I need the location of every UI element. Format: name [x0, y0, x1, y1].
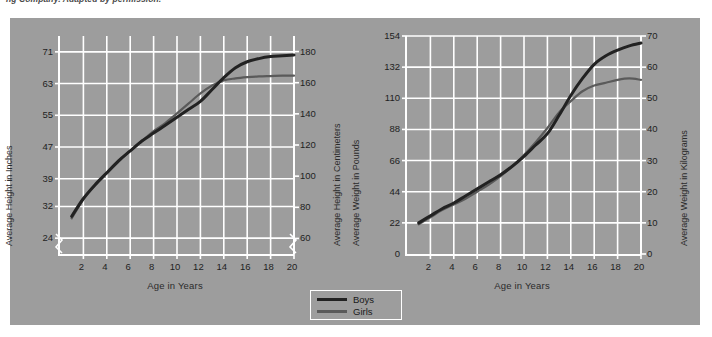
y-tick-label: 110: [366, 92, 400, 103]
y-tick-label: 132: [366, 61, 400, 72]
chart-height: Average Height in Inches Average Height …: [10, 18, 355, 288]
x-tick-label: 12: [535, 261, 555, 272]
y2-tick-label: 100: [300, 170, 330, 181]
x-tick-label: 14: [559, 261, 579, 272]
y2-tick-label: 120: [300, 139, 330, 150]
y2-tick-label: 80: [300, 201, 330, 212]
legend-label-girls: Girls: [353, 306, 373, 317]
height-curves: [60, 36, 294, 254]
y2-tick-label: 40: [647, 123, 677, 134]
y-tick-label: 63: [19, 78, 53, 89]
legend-swatch-boys: [317, 298, 347, 301]
y-tick-label: 0: [366, 248, 400, 259]
x-tick-label: 14: [212, 261, 232, 272]
y2-tick-label: 60: [300, 232, 330, 243]
legend-swatch-girls: [317, 310, 347, 313]
x-tick-label: 18: [606, 261, 626, 272]
legend: Boys Girls: [310, 290, 402, 320]
x-tick-label: 4: [95, 261, 115, 272]
plot-area-height: [58, 36, 294, 256]
y2-tick-label: 70: [647, 30, 677, 41]
y2-tick-label: 0: [647, 248, 677, 259]
caption-text: ng Company. Adapted by permission.: [6, 0, 161, 4]
x-tick-label: 8: [489, 261, 509, 272]
x-tick-label: 6: [118, 261, 138, 272]
y-tick-label: 39: [19, 173, 53, 184]
x-tick-label: 10: [165, 261, 185, 272]
y2-tick-label: 60: [647, 61, 677, 72]
x-tick-label: 10: [512, 261, 532, 272]
y-tick-label: 22: [366, 217, 400, 228]
x-tick-label: 2: [418, 261, 438, 272]
y2-tick-label: 30: [647, 155, 677, 166]
y-tick-label: 55: [19, 109, 53, 120]
y-tick-label: 71: [19, 46, 53, 57]
y2-tick-label: 180: [300, 46, 330, 57]
y2-tick-label: 20: [647, 186, 677, 197]
y-axis-title-inches: Average Height in Inches: [4, 146, 14, 246]
y-tick-label: 24: [19, 232, 53, 243]
x-axis-title-age: Age in Years: [58, 280, 292, 291]
y-tick-label: 88: [366, 123, 400, 134]
y2-tick-label: 140: [300, 108, 330, 119]
y-tick-label: 154: [366, 30, 400, 41]
x-tick-label: 20: [629, 261, 649, 272]
x-tick-label: 6: [465, 261, 485, 272]
caption-strip: ng Company. Adapted by permission.: [0, 0, 712, 14]
x-tick-label: 16: [582, 261, 602, 272]
x-tick-label: 2: [71, 261, 91, 272]
figure-panel: Average Height in Inches Average Height …: [10, 18, 700, 325]
y2-axis-title-kilograms: Average Weight in Kilograms: [679, 130, 689, 246]
y-tick-label: 32: [19, 200, 53, 211]
x-tick-label: 16: [235, 261, 255, 272]
y-axis-title-pounds: Average Weight in Pounds: [351, 140, 361, 246]
legend-item-girls: Girls: [317, 305, 373, 318]
x-tick-label: 18: [259, 261, 279, 272]
x-axis-title-age: Age in Years: [405, 280, 639, 291]
x-tick-label: 12: [188, 261, 208, 272]
y2-tick-label: 50: [647, 92, 677, 103]
y-tick-label: 66: [366, 155, 400, 166]
y2-axis-title-centimeters: Average Height in Centimeters: [332, 124, 342, 246]
y2-tick-label: 10: [647, 217, 677, 228]
x-tick-label: 8: [142, 261, 162, 272]
x-tick-label: 20: [282, 261, 302, 272]
weight-curves: [407, 36, 641, 254]
y2-tick-label: 160: [300, 77, 330, 88]
legend-label-boys: Boys: [353, 294, 374, 305]
y-tick-label: 44: [366, 186, 400, 197]
x-tick-label: 4: [442, 261, 462, 272]
chart-weight: Average Weight in Pounds Average Weight …: [355, 18, 700, 288]
plot-area-weight: [405, 36, 641, 256]
y-tick-label: 47: [19, 141, 53, 152]
